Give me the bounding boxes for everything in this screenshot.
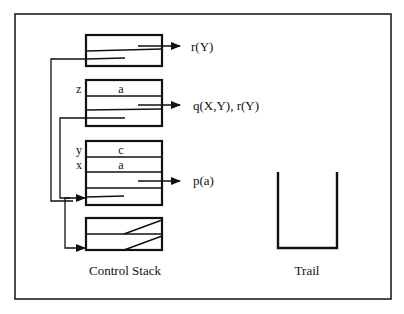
stack-frame-3	[86, 141, 180, 205]
trail-container	[278, 172, 337, 248]
var-value-label: c	[118, 143, 123, 157]
var-name-label: z	[76, 82, 81, 96]
var-value-label: a	[118, 158, 124, 172]
var-name-label: x	[76, 158, 82, 172]
goal-label: q(X,Y), r(Y)	[193, 98, 259, 113]
figure-frame	[15, 14, 391, 299]
stack-frame-2	[86, 80, 180, 126]
stack-frame-4	[86, 218, 162, 250]
control-stack-trail-diagram: z a y c x a r(Y) q(X,Y), r(Y) p(a) Contr…	[0, 0, 404, 314]
pointer-line	[51, 59, 86, 201]
stack-frame-1	[86, 35, 180, 66]
control-stack-label: Control Stack	[89, 263, 161, 278]
var-value-label: a	[118, 82, 124, 96]
trail-label: Trail	[295, 263, 320, 278]
goal-label: p(a)	[193, 173, 214, 188]
pointer-line	[60, 118, 86, 198]
pointer-line	[65, 198, 85, 248]
var-name-label: y	[76, 143, 82, 157]
goal-label: r(Y)	[191, 39, 213, 54]
